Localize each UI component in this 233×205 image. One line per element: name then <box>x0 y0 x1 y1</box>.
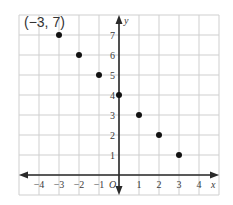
data-point <box>136 112 142 118</box>
x-tick-label: −3 <box>54 179 65 190</box>
y-tick-label: 3 <box>110 110 115 121</box>
x-axis-left-arrow-icon <box>19 172 28 179</box>
y-axis-down-arrow-icon <box>116 186 123 195</box>
y-axis-up-arrow-icon <box>116 15 123 24</box>
x-tick-label: 4 <box>197 179 202 190</box>
y-tick-label: 5 <box>110 70 115 81</box>
point-annotation: (−3, 7) <box>24 14 65 30</box>
data-point <box>96 72 102 78</box>
x-tick-label: 1 <box>137 179 142 190</box>
x-axis-right-arrow-icon <box>210 172 219 179</box>
x-tick-label: −1 <box>94 179 105 190</box>
y-tick-label: 6 <box>110 50 115 61</box>
data-point <box>116 92 122 98</box>
axes <box>19 15 219 195</box>
data-point <box>156 132 162 138</box>
data-point <box>76 52 82 58</box>
y-tick-label: 7 <box>110 30 115 41</box>
x-tick-label: 3 <box>177 179 182 190</box>
x-tick-label: −4 <box>34 179 45 190</box>
y-tick-label: 4 <box>110 90 115 101</box>
origin-label: O <box>109 179 116 190</box>
x-axis-label: x <box>210 179 216 190</box>
x-tick-label: 2 <box>157 179 162 190</box>
x-tick-label: −2 <box>74 179 85 190</box>
data-point <box>56 32 62 38</box>
coordinate-plane: −4−3−2−112341234567 (−3, 7) x y O <box>0 0 233 205</box>
y-tick-label: 1 <box>110 150 115 161</box>
data-point <box>176 152 182 158</box>
y-axis-label: y <box>123 15 129 26</box>
y-tick-label: 2 <box>110 130 115 141</box>
